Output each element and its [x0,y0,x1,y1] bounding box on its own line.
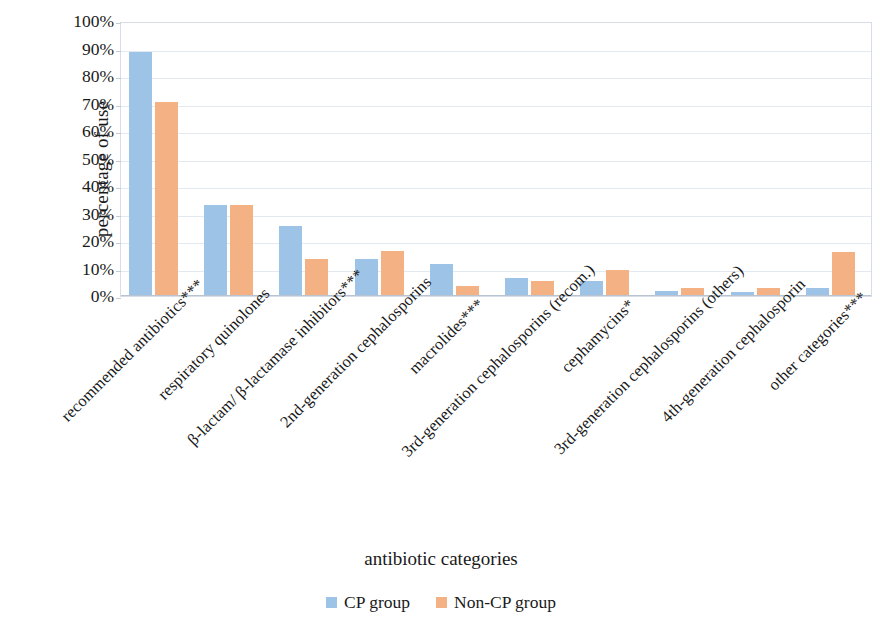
chart-legend: CP groupNon-CP group [0,592,882,613]
y-axis-tick-label: 100% [42,13,114,31]
bar-non-cp[interactable] [155,102,178,296]
y-axis-tick-label: 30% [42,206,114,224]
bar-group [422,23,497,296]
x-axis-category-label: 4th-generation cephalosporin [657,274,810,427]
legend-entry[interactable]: CP group [326,592,410,613]
bar-non-cp[interactable] [305,259,328,296]
bar-group [572,23,647,296]
legend-swatch-icon [436,597,447,608]
x-axis-category-label: cephamycins* [557,295,639,377]
bar-group [271,23,346,296]
y-axis-tick-label: 90% [42,41,114,59]
bar-chart-figure: percentage of use 0%10%20%30%40%50%60%70… [0,0,882,618]
y-axis-tick-label: 40% [42,178,114,196]
y-axis-tick-label: 80% [42,68,114,86]
legend-label: CP group [344,592,410,613]
bar-non-cp[interactable] [832,252,855,296]
x-axis-category-label-text: macrolides*** [405,295,489,379]
bar-cp[interactable] [279,226,302,296]
x-axis-title: antibiotic categories [0,548,882,570]
bar-cp[interactable] [505,278,528,296]
y-axis-tick-mark [116,298,121,299]
legend-label: Non-CP group [454,592,556,613]
y-axis-tick-label: 10% [42,261,114,279]
x-axis-category-labels: recommended antibiotics***respiratory qu… [0,300,882,540]
x-axis-category-label-text: cephamycins* [557,295,639,377]
bar-group [347,23,422,296]
x-axis-category-label: macrolides*** [405,295,489,379]
bar-group [497,23,572,296]
bar-non-cp[interactable] [606,270,629,296]
bar-group [723,23,798,296]
y-axis-tick-label: 60% [42,123,114,141]
legend-entry[interactable]: Non-CP group [436,592,556,613]
bar-cp[interactable] [430,264,453,296]
bar-cp[interactable] [129,52,152,296]
bar-group [798,23,873,296]
bar-series-container [121,23,871,296]
legend-swatch-icon [326,597,337,608]
plot-area [120,22,872,297]
y-axis-tick-label: 50% [42,151,114,169]
bar-group [196,23,271,296]
y-axis-tick-label: 20% [42,233,114,251]
bar-non-cp[interactable] [230,205,253,296]
x-axis-line [121,295,871,296]
bar-cp[interactable] [204,205,227,296]
bar-group [647,23,722,296]
y-axis-tick-labels: 0%10%20%30%40%50%60%70%80%90%100% [42,0,114,310]
x-axis-category-label-text: 4th-generation cephalosporin [657,274,810,427]
y-axis-tick-label: 70% [42,96,114,114]
bar-non-cp[interactable] [381,251,404,296]
bar-group [121,23,196,296]
